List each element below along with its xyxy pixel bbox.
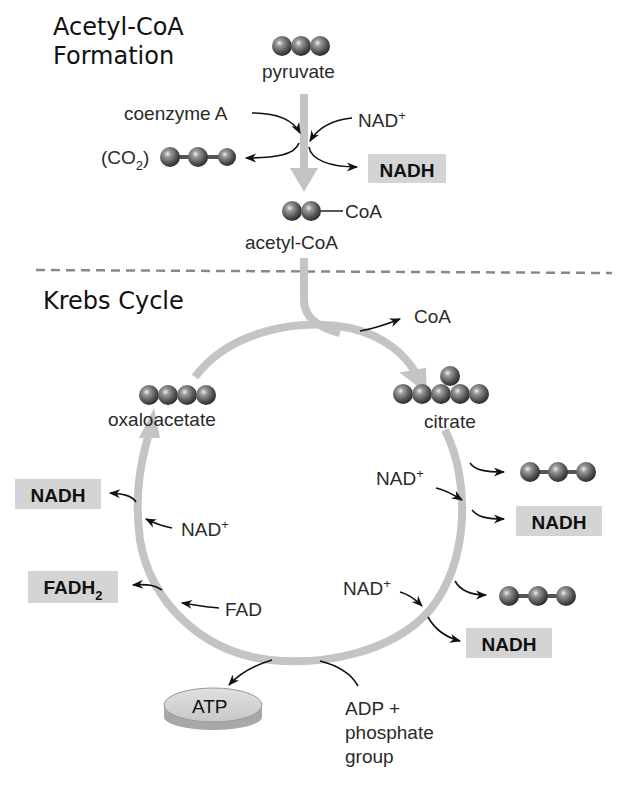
oxaloacetate-label: oxaloacetate <box>108 410 216 429</box>
krebs-cycle-ring <box>138 325 463 661</box>
adp-line-1: ADP + <box>345 698 400 719</box>
right-co2-1-molecule-icon <box>520 462 596 482</box>
nad-superscript: + <box>383 576 391 591</box>
right-co2-2-molecule-icon <box>499 586 576 606</box>
co2-out-arrow <box>246 143 299 158</box>
co2-molecule-icon <box>160 147 236 167</box>
citrate-label: citrate <box>424 412 476 431</box>
pyruvate-label: pyruvate <box>262 62 335 81</box>
krebs-cycle-title: Krebs Cycle <box>43 287 184 316</box>
title-line-1: Acetyl-CoA <box>53 13 184 41</box>
acetyl-coa-pathway-arrow <box>290 94 318 192</box>
atp-out-arrow <box>229 660 272 685</box>
adp-line-2: phosphate <box>345 722 434 743</box>
title-line-2: Formation <box>53 42 174 70</box>
left-nad-label: NAD+ <box>181 520 229 539</box>
right-nadh-2-out-arrow <box>428 617 460 641</box>
atp-label: ATP <box>192 697 228 716</box>
adp-phosphate-label: ADP + phosphate group <box>345 697 434 769</box>
diagram-canvas <box>0 0 627 792</box>
pyruvate-molecule-icon <box>272 36 330 56</box>
nad-text: NAD <box>358 110 398 131</box>
acetyl-coa-label: acetyl-CoA <box>245 233 338 252</box>
coenzyme-a-in-arrow <box>252 113 300 133</box>
acetyl-coa-formation-title: Acetyl-CoA Formation <box>53 13 184 72</box>
co2-close: ) <box>143 147 149 168</box>
co2-label: (CO2) <box>101 148 149 167</box>
section-divider <box>36 270 612 273</box>
right-nadh-box-2: NADH <box>466 628 552 658</box>
adp-in-line <box>320 661 358 686</box>
fadh2-box: FADH2 <box>28 571 118 603</box>
nad-in-arrow <box>310 118 352 141</box>
nad-superscript: + <box>416 466 424 481</box>
nad-text: NAD <box>343 578 383 599</box>
co2-text: (CO <box>101 147 136 168</box>
left-nadh-box: NADH <box>15 479 101 509</box>
coenzyme-a-label: coenzyme A <box>124 104 228 123</box>
fad-label: FAD <box>225 600 262 619</box>
right-co2-2-out-arrow <box>455 581 486 595</box>
right-nadh-box-1: NADH <box>516 506 602 536</box>
nadh-box-top: NADH <box>368 154 446 183</box>
nad-label-top: NAD+ <box>358 111 406 130</box>
fadh-text: FADH <box>44 577 96 598</box>
right-nadh-1-out-arrow <box>472 510 504 519</box>
nad-superscript: + <box>398 108 406 123</box>
acetyl-coa-molecule-icon <box>282 201 343 221</box>
right-co2-1-out-arrow <box>470 463 504 472</box>
coa-tag-label: CoA <box>345 202 382 221</box>
left-nad-in-arrow <box>146 519 172 528</box>
fad-in-arrow <box>182 603 219 608</box>
nad-text: NAD <box>376 468 416 489</box>
coa-release-arrow <box>360 319 400 331</box>
left-nadh-out-arrow <box>110 493 136 502</box>
fadh2-subscript: 2 <box>95 588 102 603</box>
adp-line-3: group <box>345 746 394 767</box>
co2-subscript: 2 <box>136 158 143 173</box>
nadh-out-arrow <box>309 147 357 167</box>
right-nad-2-in-arrow <box>400 592 422 606</box>
oxaloacetate-molecule-icon <box>139 385 216 405</box>
nad-text: NAD <box>181 519 221 540</box>
coa-release-label: CoA <box>414 307 451 326</box>
right-nad-2-label: NAD+ <box>343 579 391 598</box>
right-nad-1-label: NAD+ <box>376 469 424 488</box>
nad-superscript: + <box>221 517 229 532</box>
